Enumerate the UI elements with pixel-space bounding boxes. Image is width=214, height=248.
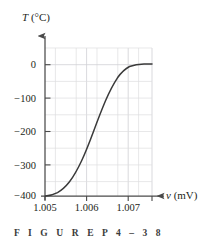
x-axis-ticks [45, 196, 152, 201]
y-tick-label-minus400: −400 [2, 191, 36, 202]
y-axis-unit: (°C) [31, 11, 50, 23]
y-axis-variable: T [22, 11, 28, 23]
x-axis-variable: v [166, 189, 171, 201]
y-tick-label-0: 0 [2, 60, 36, 71]
grid-horizontal [45, 48, 152, 182]
x-tick-label-1005: 1.005 [25, 203, 65, 214]
figure-container: T (°C) v (mV) 0 −100 −200 −300 −400 1.00… [0, 0, 214, 248]
figure-caption: F I G U R E P 4 – 3 8 [14, 228, 164, 238]
x-axis-unit: (mV) [174, 189, 198, 201]
x-axis-label: v (mV) [166, 190, 197, 201]
x-tick-label-1007: 1.007 [108, 203, 148, 214]
x-tick-label-1006: 1.006 [67, 203, 107, 214]
y-axis-label: T (°C) [22, 12, 50, 23]
y-tick-label-minus200: −200 [2, 127, 36, 138]
data-series-line [46, 64, 153, 196]
y-tick-label-minus300: −300 [2, 161, 36, 172]
y-tick-label-minus100: −100 [2, 94, 36, 105]
